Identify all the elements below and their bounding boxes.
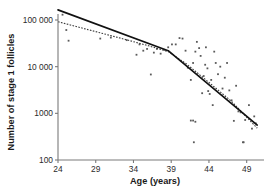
scatter-point: [153, 52, 155, 54]
scatter-point: [190, 79, 192, 81]
scatter-point: [150, 74, 152, 76]
scatter-point: [194, 121, 196, 123]
scatter-point: [222, 88, 224, 90]
scatter-point: [182, 38, 184, 40]
scatter-point: [62, 14, 64, 16]
scatter-point: [243, 141, 245, 143]
scatter-point: [146, 48, 148, 50]
scatter-point: [219, 66, 221, 68]
scatter-point: [217, 73, 219, 75]
scatter-point: [190, 120, 192, 122]
x-tick-label: 29: [91, 164, 101, 174]
y-tick-label: 100: [39, 155, 53, 165]
scatter-point: [215, 62, 217, 64]
scatter-point: [205, 46, 207, 48]
scatter-point: [200, 55, 202, 57]
scatter-point: [110, 37, 112, 39]
chart-figure: 100100010 000100 000 242934394449 Age (y…: [0, 0, 269, 192]
scatter-point: [253, 115, 255, 117]
scatter-point: [244, 119, 246, 121]
scatter-point: [192, 62, 194, 64]
scatter-point: [179, 37, 181, 39]
scatter-point: [175, 44, 177, 46]
scatter-point: [209, 93, 211, 95]
y-axis-title: Number of stage 1 follicles: [6, 34, 16, 151]
scatter-point: [224, 77, 226, 79]
scatter-point: [228, 90, 230, 92]
scatter-point: [171, 44, 173, 46]
scatter-point: [196, 41, 198, 43]
scatter-point: [167, 46, 169, 48]
scatter-point: [192, 120, 194, 122]
scatter-point: [226, 62, 228, 64]
scatter-point: [201, 92, 203, 94]
scatter-point: [210, 79, 212, 81]
x-axis-title: Age (years): [130, 176, 180, 186]
scatter-point: [142, 50, 144, 52]
scatter-point: [207, 67, 209, 69]
scatter-point: [194, 51, 196, 53]
scatter-point: [99, 38, 101, 40]
y-tick-label: 100 000: [23, 15, 54, 25]
y-tick-label: 10 000: [27, 62, 53, 72]
scatter-point: [203, 75, 205, 77]
scatter-point: [68, 40, 70, 42]
x-tick-label: 39: [167, 164, 177, 174]
scatter-point: [231, 99, 233, 101]
scatter-point: [207, 90, 209, 92]
x-tick-label: 24: [53, 164, 63, 174]
y-tick-label: 1000: [34, 108, 53, 118]
scatter-point: [235, 85, 237, 87]
x-tick-label: 34: [129, 164, 139, 174]
x-tick-label: 44: [204, 164, 214, 174]
scatter-point: [160, 53, 162, 55]
scatter-point: [193, 141, 195, 143]
x-tick-label: 49: [242, 164, 252, 174]
scatter-point: [136, 54, 138, 56]
scatter-point: [213, 51, 215, 53]
scatter-point: [248, 104, 250, 106]
scatter-point: [233, 120, 235, 122]
scatter-point: [65, 29, 67, 31]
scatter-point: [212, 104, 214, 106]
scatter-point: [204, 64, 206, 66]
scatter-point: [185, 50, 187, 52]
scatter-point: [251, 128, 253, 130]
scatter-point: [198, 47, 200, 49]
